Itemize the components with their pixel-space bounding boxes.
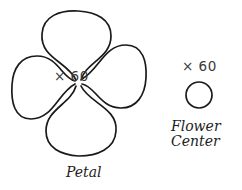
diagram-canvas: × 60 Petal × 60 Flower Center <box>0 0 242 190</box>
flower-center-quantity-label: × 60 <box>182 60 217 74</box>
flower-parts-figure <box>0 0 242 190</box>
flower-center-name-line-1: Flower <box>171 119 221 134</box>
flower-center-name-label: Flower Center <box>171 119 221 149</box>
petal-name-label: Petal <box>66 165 102 180</box>
petal-quantity-label: × 60 <box>54 70 89 84</box>
flower-center-circle-icon <box>186 82 212 108</box>
flower-center-name-line-2: Center <box>171 134 221 149</box>
